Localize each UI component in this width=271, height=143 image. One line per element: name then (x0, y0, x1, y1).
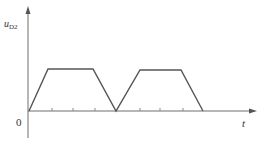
x-axis-label: t (242, 117, 246, 129)
waveform-diagram: uD2 0 t (0, 0, 271, 143)
y-axis-arrow-icon (26, 6, 31, 14)
x-axis (28, 109, 257, 114)
origin-label: 0 (16, 116, 22, 128)
y-axis (26, 6, 31, 138)
trapezoidal-waveform (29, 69, 203, 111)
x-axis-arrow-icon (249, 109, 257, 114)
y-axis-label: uD2 (4, 18, 18, 31)
y-axis-label-subscript: D2 (9, 23, 18, 31)
